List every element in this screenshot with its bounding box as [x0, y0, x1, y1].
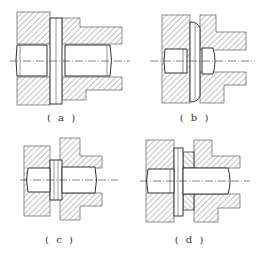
- panel-d-label: ( d ): [170, 234, 210, 245]
- technical-drawing: [0, 0, 259, 255]
- panel-b-drawing: [150, 15, 255, 103]
- panel-a-label: ( a ): [42, 112, 82, 123]
- panel-a-drawing: [10, 12, 130, 105]
- panel-c-drawing: [20, 138, 118, 220]
- panel-d-drawing: [140, 140, 250, 222]
- panel-c-label: ( c ): [40, 234, 80, 245]
- panel-b-label: ( b ): [175, 112, 215, 123]
